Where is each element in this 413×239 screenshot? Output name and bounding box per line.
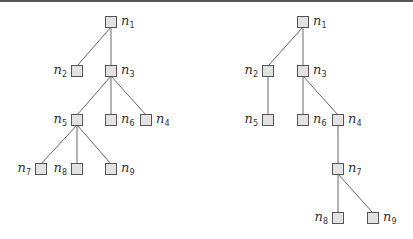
edge-n5-n7: [41, 125, 77, 164]
node-label: n4: [348, 111, 361, 128]
node-box: [298, 66, 309, 77]
node-box: [106, 115, 117, 126]
node-label: n9: [383, 209, 396, 226]
node-box: [263, 115, 274, 126]
node-box: [106, 164, 117, 175]
node-box: [72, 164, 83, 175]
node-n1: n1: [106, 13, 135, 30]
node-n6: n6: [298, 111, 327, 128]
node-box: [72, 115, 83, 126]
node-box: [368, 213, 379, 224]
node-label: n7: [348, 160, 361, 177]
node-box: [298, 115, 309, 126]
node-label: n5: [54, 111, 67, 128]
node-n8: n8: [315, 209, 344, 226]
node-label: n2: [245, 62, 258, 79]
node-n7: n7: [333, 160, 362, 177]
node-box: [298, 17, 309, 28]
tree-diagram: n1n2n3n5n6n4n7n8n9n1n2n3n5n6n4n7n8n9: [0, 0, 413, 239]
edge-n3-n5: [77, 76, 111, 115]
right-tree: n1n2n3n5n6n4n7n8n9: [245, 13, 397, 226]
node-label: n9: [121, 160, 134, 177]
node-label: n7: [18, 160, 31, 177]
left-tree: n1n2n3n5n6n4n7n8n9: [18, 13, 170, 177]
node-label: n8: [315, 209, 328, 226]
node-n3: n3: [298, 62, 327, 79]
node-n5: n5: [245, 111, 274, 128]
node-box: [36, 164, 47, 175]
node-label: n6: [121, 111, 134, 128]
node-box: [141, 115, 152, 126]
node-label: n3: [121, 62, 134, 79]
edge-n7-n9: [338, 174, 373, 213]
node-label: n5: [245, 111, 258, 128]
node-label: n3: [313, 62, 326, 79]
node-box: [333, 164, 344, 175]
node-label: n2: [54, 62, 67, 79]
node-box: [106, 66, 117, 77]
node-box: [333, 213, 344, 224]
edge-n1-n2: [268, 27, 303, 66]
edge-n3-n4: [303, 76, 338, 115]
node-label: n1: [313, 13, 326, 30]
node-label: n1: [121, 13, 134, 30]
edge-n3-n4: [111, 76, 146, 115]
node-box: [263, 66, 274, 77]
node-n6: n6: [106, 111, 135, 128]
node-box: [333, 115, 344, 126]
node-box: [72, 66, 83, 77]
edge-n5-n9: [77, 125, 111, 164]
node-label: n6: [313, 111, 326, 128]
node-label: n8: [54, 160, 67, 177]
node-box: [106, 17, 117, 28]
node-n3: n3: [106, 62, 135, 79]
node-n1: n1: [298, 13, 327, 30]
edge-n1-n2: [77, 27, 111, 66]
node-n8: n8: [54, 160, 83, 177]
node-label: n4: [156, 111, 169, 128]
